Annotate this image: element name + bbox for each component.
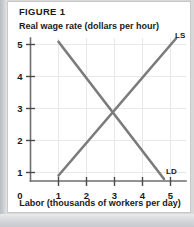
labor-supply-label: LS bbox=[175, 31, 186, 40]
x-axis-label: Labor (thousands of workers per day) bbox=[8, 198, 192, 208]
page-edge-bottom bbox=[0, 214, 194, 227]
axis-lines bbox=[31, 38, 187, 181]
y-tick-label-2: 2 bbox=[17, 135, 22, 146]
y-tick-label-3: 3 bbox=[17, 103, 22, 114]
figure-screenshot: FIGURE 1 Real wage rate (dollars per hou… bbox=[0, 0, 194, 227]
y-tick-label-4: 4 bbox=[17, 71, 23, 82]
y-tick-label-5: 5 bbox=[17, 39, 23, 50]
labor-demand-label: LD bbox=[166, 167, 177, 176]
y-tick-label-1: 1 bbox=[17, 167, 23, 178]
chart-plot-area: 5 4 3 2 1 0 1 2 3 4 5 LS LD bbox=[8, 2, 192, 214]
grid-horizontal bbox=[30, 45, 186, 173]
page-edge-left bbox=[0, 0, 7, 215]
labor-supply-curve bbox=[59, 39, 177, 176]
figure-panel: FIGURE 1 Real wage rate (dollars per hou… bbox=[7, 1, 191, 213]
